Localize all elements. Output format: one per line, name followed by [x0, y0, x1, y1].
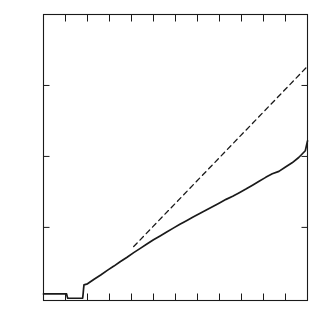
plot-area — [0, 0, 323, 309]
chart-figure: Optical density 0.4 0.3 0.2 0.1 — [0, 0, 323, 309]
figure-background — [0, 0, 323, 309]
